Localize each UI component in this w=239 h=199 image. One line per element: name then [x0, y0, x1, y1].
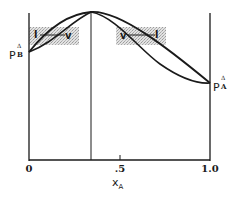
- phase-diagram: P Δ B P Δ A l v v l 0 .5 1.0 xA: [0, 0, 239, 199]
- x-tick-1-0: 1.0: [201, 164, 218, 174]
- left-region-vapor-label: v: [65, 31, 72, 41]
- pb-label: P Δ B: [9, 46, 31, 62]
- vapor-curve: [29, 12, 210, 83]
- left-region-liquid-label: l: [34, 30, 37, 40]
- pb-sub: B: [17, 51, 23, 58]
- right-region-vapor-label: v: [120, 31, 127, 41]
- right-region-liquid-label: l: [155, 30, 158, 40]
- pa-main: P: [213, 81, 220, 94]
- x-tick-0: 0: [26, 164, 33, 174]
- pa-delta: Δ: [221, 75, 225, 81]
- x-tick-0-5: .5: [115, 164, 125, 174]
- x-axis-label-sub: A: [119, 183, 124, 191]
- pb-delta: Δ: [17, 43, 21, 49]
- liquid-curve: [29, 12, 210, 83]
- x-axis-label: xA: [112, 177, 123, 188]
- x-axis-label-main: x: [112, 176, 119, 189]
- pb-main: P: [9, 49, 16, 62]
- pa-sub: A: [221, 83, 226, 90]
- pa-label: P Δ A: [213, 78, 235, 94]
